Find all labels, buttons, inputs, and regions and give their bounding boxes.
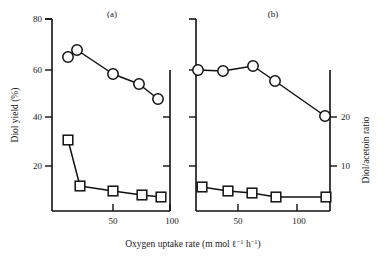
panel-a-xlabel-50: 50	[109, 216, 119, 226]
panel-b-diol-yield-point	[218, 66, 228, 76]
panel-b-diol-yield-point	[270, 76, 280, 86]
xaxis-caption: Oxygen uptake rate (m mol ℓ−1 h−1)	[125, 238, 261, 251]
panel-a-diol-yield-point	[72, 45, 82, 55]
panel-a-ylabel-80: 80	[33, 14, 43, 24]
panel-b-diol-yield-point	[193, 65, 203, 75]
panel-b-diol-yield-point	[248, 61, 258, 71]
panel-b: (b) 20 10 50 100	[189, 9, 351, 226]
panel-a-diol-yield-point	[153, 94, 163, 104]
panel-b-diol-yield-line	[198, 66, 325, 116]
chart-svg: (a) 80 60 40 20 50 100	[0, 0, 386, 262]
panel-a-ratio-point	[108, 186, 118, 196]
panel-b-ratio-point	[321, 192, 331, 202]
panel-b-ratio-point	[223, 186, 233, 196]
panel-a-diol-yield-point	[134, 79, 144, 89]
panel-b-ratio-point	[271, 192, 281, 202]
figure-container: (a) 80 60 40 20 50 100	[0, 0, 386, 262]
xaxis-caption-close: )	[258, 239, 261, 250]
xaxis-caption-sup2: −1	[251, 238, 258, 245]
xaxis-caption-sup1: −1	[237, 238, 244, 245]
panel-a-ratio-point	[137, 190, 147, 200]
panel-b-ratio-point	[247, 188, 257, 198]
panel-a-diol-yield-point	[63, 52, 73, 62]
panel-b-label: (b)	[268, 9, 279, 19]
panel-b-ratio-point	[197, 182, 207, 192]
panel-a-xlabel-100: 100	[165, 216, 179, 226]
right-axis-title: Diol/acetoin ratio	[361, 116, 371, 183]
panel-a-label: (a)	[107, 9, 117, 19]
panel-b-xlabel-50: 50	[234, 216, 244, 226]
panel-a-ylabel-60: 60	[33, 65, 43, 75]
panel-b-right-label-20: 20	[341, 112, 351, 122]
left-axis-title: Diol yield (%)	[10, 88, 21, 143]
panel-a-ratio-point	[63, 135, 73, 145]
panel-a-ylabel-40: 40	[33, 112, 43, 122]
xaxis-caption-main: Oxygen uptake rate (m mol	[125, 239, 232, 250]
panel-b-right-label-10: 10	[341, 161, 351, 171]
panel-a-ylabel-20: 20	[33, 161, 43, 171]
panel-a-diol-yield-point	[108, 69, 118, 79]
panel-b-diol-yield-point	[320, 111, 330, 121]
panel-a-ratio-point	[75, 181, 85, 191]
panel-b-xlabel-100: 100	[292, 216, 306, 226]
panel-a: (a) 80 60 40 20 50 100	[33, 9, 179, 226]
panel-b-ratio-line	[202, 187, 326, 197]
panel-a-ratio-point	[156, 192, 166, 202]
